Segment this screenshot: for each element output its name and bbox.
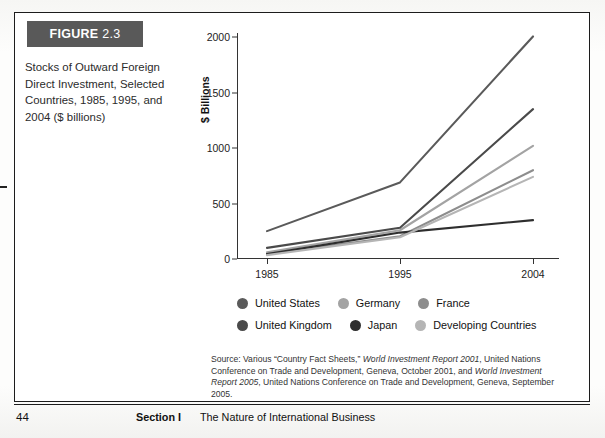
page-edge-tick <box>0 186 7 188</box>
footer-section-title: The Nature of International Business <box>200 411 375 423</box>
legend-label: Japan <box>368 319 397 331</box>
source-note: Source: Various “Country Fact Sheets,” W… <box>211 354 563 400</box>
y-tick-mark <box>232 92 237 93</box>
textbook-page: FIGURE 2.3 Stocks of Outward Foreign Dir… <box>0 0 605 438</box>
y-axis-label: $ Billions <box>199 76 211 123</box>
legend-label: Developing Countries <box>433 319 536 331</box>
source-title-1: World Investment Report 2001 <box>363 354 480 364</box>
figure-container: FIGURE 2.3 Stocks of Outward Foreign Dir… <box>14 12 590 402</box>
figure-badge: FIGURE 2.3 <box>27 21 143 47</box>
legend-marker-icon <box>237 320 248 331</box>
legend-label: France <box>436 297 470 309</box>
plot-area: 0500100015002000198519952004 <box>237 37 555 259</box>
legend-row: United KingdomJapanDeveloping Countries <box>237 319 577 331</box>
figure-badge-label: FIGURE <box>49 27 98 41</box>
footer-section: Section I <box>136 411 181 423</box>
y-tick-mark <box>232 259 237 260</box>
legend-item[interactable]: United States <box>237 297 320 309</box>
legend-row: United StatesGermanyFrance <box>237 297 577 309</box>
figure-badge-number: 2.3 <box>102 27 120 41</box>
legend-marker-icon <box>350 320 361 331</box>
figure-caption: Stocks of Outward Foreign Direct Investm… <box>25 59 175 125</box>
y-tick-mark <box>232 203 237 204</box>
legend-marker-icon <box>338 298 349 309</box>
x-tick-mark <box>267 259 268 264</box>
page-footer: 44 Section I The Nature of International… <box>14 404 590 430</box>
page-number: 44 <box>16 411 29 423</box>
legend-item[interactable]: Developing Countries <box>415 319 536 331</box>
x-tick-mark <box>533 259 534 264</box>
series-line <box>267 109 533 248</box>
x-tick-label: 2004 <box>521 268 544 280</box>
chart: $ Billions 0500100015002000198519952004 <box>201 27 581 287</box>
figure-badge-text: FIGURE 2.3 <box>49 27 120 41</box>
series-line <box>267 36 533 231</box>
legend-item[interactable]: Germany <box>338 297 400 309</box>
legend-item[interactable]: United Kingdom <box>237 319 332 331</box>
legend-item[interactable]: France <box>418 297 470 309</box>
chart-legend: United StatesGermanyFranceUnited Kingdom… <box>237 297 577 341</box>
legend-marker-icon <box>418 298 429 309</box>
source-line2-b: , United Nations Conference on Trade and… <box>211 377 554 399</box>
y-tick-mark <box>232 148 237 149</box>
legend-label: United States <box>255 297 320 309</box>
legend-marker-icon <box>415 320 426 331</box>
x-tick-label: 1995 <box>388 268 411 280</box>
x-tick-label: 1985 <box>255 268 278 280</box>
legend-label: United Kingdom <box>255 319 332 331</box>
series-lines <box>237 33 555 259</box>
y-tick-mark <box>232 37 237 38</box>
legend-label: Germany <box>356 297 400 309</box>
legend-marker-icon <box>237 298 248 309</box>
x-tick-mark <box>400 259 401 264</box>
legend-item[interactable]: Japan <box>350 319 397 331</box>
source-line1-a: Source: Various “Country Fact Sheets,” <box>211 354 363 364</box>
